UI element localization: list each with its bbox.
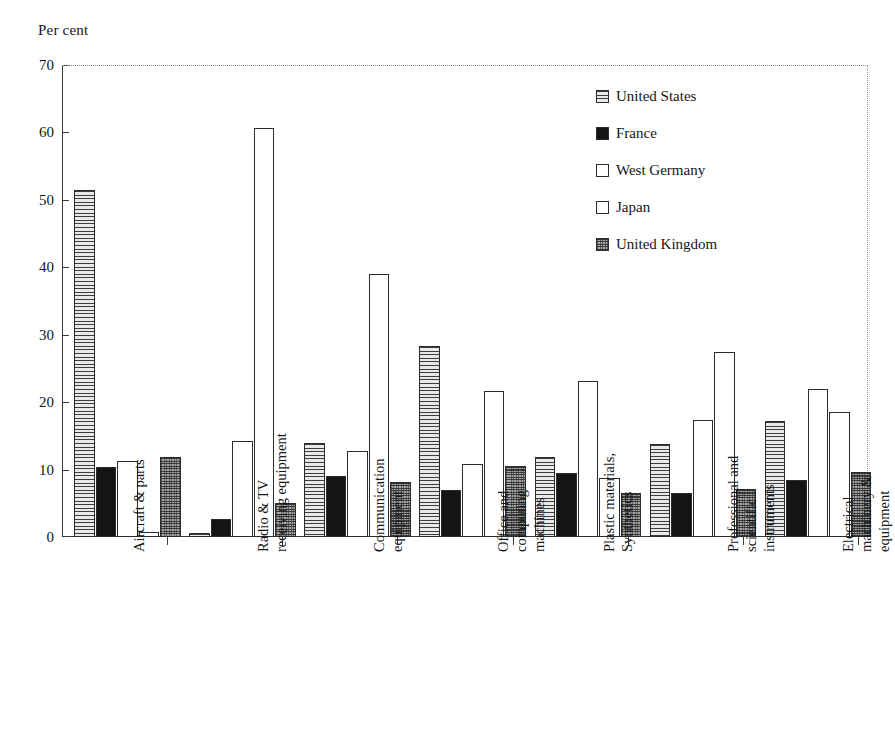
- category-label-line: Office and: [494, 490, 512, 552]
- x-axis-category-label: Plastic materials,Synthetics: [600, 453, 636, 552]
- y-axis-tick-label: 10: [39, 461, 54, 478]
- bar: [347, 451, 368, 537]
- y-axis-tick-labels: 010203040506070: [0, 0, 54, 734]
- category-label-line: Electrical: [839, 476, 857, 552]
- x-axis-category-label: Electricalmachinery &equipment: [839, 476, 893, 552]
- y-axis-tick-label: 30: [39, 326, 54, 343]
- legend-label: United Kingdom: [616, 236, 717, 253]
- y-axis-tick-label: 60: [39, 124, 54, 141]
- x-axis-category-label: Communicationequipment: [370, 459, 406, 552]
- bar-group: [407, 65, 522, 537]
- legend-swatch-icon: [596, 90, 609, 103]
- category-label-line: Radio & TV: [254, 433, 272, 552]
- bar: [441, 490, 462, 537]
- x-axis-category-label: Professional andscientificinstruments: [724, 456, 778, 552]
- category-label-line: computing: [512, 490, 530, 552]
- y-axis-tick-label: 50: [39, 191, 54, 208]
- bar: [671, 493, 692, 537]
- category-label-line: Professional and: [724, 456, 742, 552]
- x-axis-category-label: Office andcomputingmachines: [494, 490, 548, 552]
- category-label-line: Communication: [370, 459, 388, 552]
- category-label-line: machines: [530, 490, 548, 552]
- x-axis-category-label: Aircraft & parts: [130, 459, 148, 552]
- legend-swatch-icon: [596, 238, 609, 251]
- bar: [232, 441, 253, 537]
- bar: [211, 519, 232, 537]
- category-label-line: equipment: [875, 476, 893, 552]
- category-label-line: instruments: [760, 456, 778, 552]
- bar: [419, 346, 440, 537]
- bar: [693, 420, 714, 537]
- bar: [578, 381, 599, 537]
- category-label-line: Aircraft & parts: [130, 459, 148, 552]
- category-label-line: Synthetics: [618, 453, 636, 552]
- bar: [96, 467, 117, 537]
- legend-item: France: [596, 115, 826, 152]
- legend-label: West Germany: [616, 162, 705, 179]
- legend-swatch-icon: [596, 201, 609, 214]
- bar: [786, 480, 807, 537]
- category-label-line: Plastic materials,: [600, 453, 618, 552]
- legend-label: United States: [616, 88, 696, 105]
- legend-label: Japan: [616, 199, 650, 216]
- bar: [808, 389, 829, 537]
- bar-chart: Per cent 010203040506070 Aircraft & part…: [0, 0, 895, 734]
- legend-item: West Germany: [596, 152, 826, 189]
- bar: [304, 443, 325, 537]
- legend-item: Japan: [596, 189, 826, 226]
- y-axis-tick-label: 20: [39, 394, 54, 411]
- category-label-line: equipment: [388, 459, 406, 552]
- legend-item: United Kingdom: [596, 226, 826, 263]
- legend-item: United States: [596, 78, 826, 115]
- bar: [326, 476, 347, 537]
- x-axis-tick-mark: [167, 537, 168, 545]
- category-label-line: machinery &: [857, 476, 875, 552]
- bar: [74, 190, 95, 537]
- chart-legend: United StatesFranceWest GermanyJapanUnit…: [596, 78, 826, 263]
- legend-swatch-icon: [596, 127, 609, 140]
- bar: [462, 464, 483, 537]
- bar: [556, 473, 577, 537]
- legend-label: France: [616, 125, 657, 142]
- y-axis-tick-label: 70: [39, 57, 54, 74]
- legend-swatch-icon: [596, 164, 609, 177]
- bar: [189, 533, 210, 537]
- x-axis-category-label: Radio & TVreceiving equipment: [254, 433, 290, 552]
- y-axis-tick-label: 0: [47, 529, 55, 546]
- y-axis-tick-label: 40: [39, 259, 54, 276]
- category-label-line: scientific: [742, 456, 760, 552]
- category-label-line: receiving equipment: [272, 433, 290, 552]
- bar: [650, 444, 671, 537]
- bar-group: [62, 65, 177, 537]
